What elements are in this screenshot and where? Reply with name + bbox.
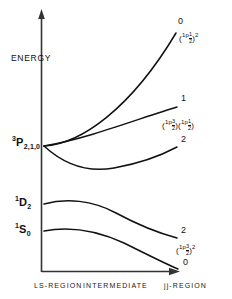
config-a-principal: 1p <box>182 32 189 38</box>
term-1s-j: 0 <box>27 230 31 237</box>
config-c-j-fraction: 32 <box>186 244 189 256</box>
curve-1s0-j0 <box>44 229 178 269</box>
x-region-jj: jj-REGION <box>164 282 207 289</box>
y-axis-arrowhead <box>38 9 45 19</box>
curve-3p-j2 <box>44 146 177 169</box>
term-label-1d: 1D2 <box>15 195 31 210</box>
term-label-3p: 3P2,1,0 <box>12 135 40 150</box>
curve-group <box>44 33 178 269</box>
term-1d-j: 2 <box>27 203 31 210</box>
term-3p-letter: P <box>16 136 24 148</box>
x-axis <box>42 268 181 275</box>
j-label-2-lower: 2 <box>181 226 186 235</box>
j-label-1: 1 <box>181 94 186 103</box>
config-b-principal-a: 1p <box>165 119 172 125</box>
config-c-principal: 1p <box>179 244 186 250</box>
config-b-j-fraction-a: 32 <box>172 119 175 131</box>
curve-3p-j1 <box>44 107 177 146</box>
config-label-1p32-1p12: (1p32)(1p12) <box>162 119 194 131</box>
j-label-2-upper: 2 <box>181 135 186 144</box>
config-b-principal-b: 1p <box>181 119 188 125</box>
config-c-exponent: 2 <box>192 244 196 250</box>
term-label-1s: 1S0 <box>15 222 31 237</box>
j-label-top-0: 0 <box>178 17 183 26</box>
config-a-exponent: 2 <box>195 32 199 38</box>
y-axis-title: ENERGY <box>11 54 51 63</box>
config-label-1p32-squared: (1p32)2 <box>176 244 196 256</box>
j-label-bottom-0: 0 <box>183 258 188 267</box>
x-region-intermediate: INTERMEDIATE <box>83 282 148 289</box>
config-a-j-fraction: 12 <box>189 32 192 44</box>
term-1s-letter: S <box>19 223 27 235</box>
term-3p-j: 2,1,0 <box>24 143 41 150</box>
curve-1d2-j2 <box>44 201 177 238</box>
config-b-j-fraction-b: 12 <box>188 119 191 131</box>
x-region-ls: LS-REGION <box>34 282 82 289</box>
ls-jj-coupling-diagram: ENERGY 3P2,1,0 1D2 1S0 0 1 2 2 0 (1p12)2… <box>0 0 232 299</box>
config-label-1p12-squared: (1p12)2 <box>179 32 199 44</box>
